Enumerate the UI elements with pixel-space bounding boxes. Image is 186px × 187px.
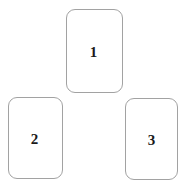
card-3[interactable]: 3 <box>125 98 178 180</box>
card-2-label: 2 <box>31 132 39 147</box>
card-2[interactable]: 2 <box>8 97 63 179</box>
card-3-label: 3 <box>148 133 156 148</box>
card-1-label: 1 <box>90 45 98 60</box>
card-1[interactable]: 1 <box>66 9 123 93</box>
card-layout: 1 2 3 <box>0 0 186 187</box>
